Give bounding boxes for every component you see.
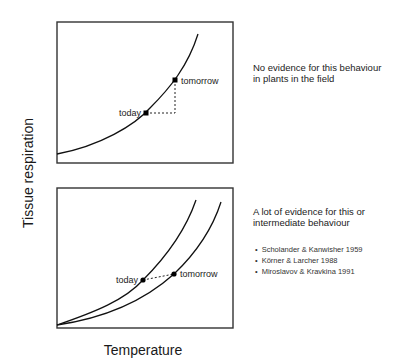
bottom-panel-frame [57, 188, 233, 328]
top-tomorrow-point [173, 78, 178, 83]
bottom-panel-curve-tomorrow [57, 202, 221, 325]
top-panel-frame [57, 22, 233, 163]
bottom-tomorrow-point [171, 271, 176, 276]
top-panel-note: No evidence for this behaviour in plants… [253, 62, 383, 84]
reference-item: Körner & Larcher 1988 [255, 255, 363, 266]
top-today-label: today [119, 108, 142, 118]
bottom-today-label: today [116, 275, 139, 285]
bottom-today-point [140, 277, 145, 282]
top-today-point [144, 111, 149, 116]
top-tomorrow-label: tomorrow [181, 76, 219, 86]
bottom-panel-note: A lot of evidence for this or intermedia… [253, 206, 388, 228]
respiration-diagram: today tomorrow today tomorrow Tissue res… [0, 0, 394, 362]
bottom-panel-curve-today [57, 200, 196, 325]
bottom-tomorrow-label: tomorrow [180, 269, 218, 279]
reference-item: Miroslavov & Kravkina 1991 [255, 266, 363, 277]
reference-list: Scholander & Kanwisher 1959 Körner & Lar… [255, 244, 363, 277]
y-axis-label: Tissue respiration [20, 118, 36, 228]
x-axis-label: Temperature [104, 342, 183, 358]
reference-item: Scholander & Kanwisher 1959 [255, 244, 363, 255]
top-panel-curve [57, 34, 198, 154]
